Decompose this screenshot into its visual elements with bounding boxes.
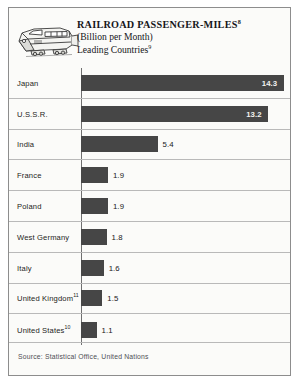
bar-track: 13.2 bbox=[81, 106, 286, 122]
bar-row-label: Italy bbox=[17, 263, 32, 272]
bar-row-label: United States10 bbox=[17, 325, 71, 334]
chart-title: RAILROAD PASSENGER-MILES8 bbox=[77, 18, 289, 31]
bar bbox=[81, 260, 104, 276]
bar bbox=[81, 290, 102, 306]
bar-row-footnote-ref: 10 bbox=[65, 324, 71, 330]
bar-row: United States101.1 bbox=[9, 314, 290, 345]
chart-header: RAILROAD PASSENGER-MILES8 (Billion per M… bbox=[9, 8, 290, 68]
bar-value-label: 1.1 bbox=[102, 325, 113, 334]
plot-area: Japan14.3U.S.S.R.13.2India5.4France1.9Po… bbox=[9, 68, 290, 345]
bar-value-label: 1.6 bbox=[109, 263, 120, 272]
bar-row: France1.9 bbox=[9, 160, 290, 191]
bar-track: 5.4 bbox=[81, 136, 286, 152]
bar-row: U.S.S.R.13.2 bbox=[9, 99, 290, 130]
bar-row: Japan14.3 bbox=[9, 68, 290, 99]
bar-track: 1.1 bbox=[81, 322, 286, 338]
chart-card: RAILROAD PASSENGER-MILES8 (Billion per M… bbox=[8, 7, 291, 376]
bar-rows-container: Japan14.3U.S.S.R.13.2India5.4France1.9Po… bbox=[9, 68, 290, 345]
bar-row-label-text: France bbox=[17, 171, 42, 180]
bar-row-label-text: West Germany bbox=[17, 232, 69, 241]
chart-subtitle-units: (Billion per Month) bbox=[77, 31, 289, 44]
bar-value-label: 14.3 bbox=[262, 78, 278, 87]
bar bbox=[81, 75, 284, 91]
bar-row-label: U.S.S.R. bbox=[17, 109, 48, 118]
bar bbox=[81, 136, 158, 152]
bar-row-label-text: U.S.S.R. bbox=[17, 109, 48, 118]
bar-row: India5.4 bbox=[9, 130, 290, 161]
chart-footer: Source: Statistical Office, United Natio… bbox=[9, 342, 290, 375]
bar-row: United Kingdom111.5 bbox=[9, 284, 290, 315]
source-note: Source: Statistical Office, United Natio… bbox=[18, 353, 149, 360]
chart-subtitle-scope: Leading Countries9 bbox=[77, 44, 289, 57]
bar-row-label: Poland bbox=[17, 202, 42, 211]
bar-value-label: 1.8 bbox=[112, 232, 123, 241]
bar-value-label: 1.9 bbox=[113, 202, 124, 211]
bar-track: 14.3 bbox=[81, 75, 286, 91]
bar-track: 1.8 bbox=[81, 229, 286, 245]
bar bbox=[81, 322, 97, 338]
bar-value-label: 5.4 bbox=[163, 140, 174, 149]
chart-title-footnote-ref: 8 bbox=[238, 18, 241, 25]
bar-value-label: 1.5 bbox=[107, 294, 118, 303]
bar-row-label-text: United States bbox=[17, 325, 65, 334]
bar-track: 1.5 bbox=[81, 290, 286, 306]
bar-track: 1.9 bbox=[81, 198, 286, 214]
bar-row: Poland1.9 bbox=[9, 191, 290, 222]
bar bbox=[81, 229, 107, 245]
bar bbox=[81, 198, 108, 214]
chart-subtitle-scope-text: Leading Countries bbox=[77, 44, 148, 55]
bar-track: 1.9 bbox=[81, 167, 286, 183]
bar-value-label: 13.2 bbox=[246, 109, 262, 118]
bar-row-label-text: Poland bbox=[17, 202, 42, 211]
bar-value-label: 1.9 bbox=[113, 171, 124, 180]
bar-row-label: India bbox=[17, 140, 34, 149]
bar bbox=[81, 106, 268, 122]
bar bbox=[81, 167, 108, 183]
chart-title-text: RAILROAD PASSENGER-MILES bbox=[77, 19, 238, 30]
bar-row-label: United Kingdom11 bbox=[17, 294, 79, 303]
bar-row-footnote-ref: 11 bbox=[73, 292, 79, 298]
bar-row-label: Japan bbox=[17, 78, 38, 87]
bar-row-label-text: Japan bbox=[17, 78, 38, 87]
bar-row-label-text: United Kingdom bbox=[17, 294, 73, 303]
locomotive-illustration bbox=[12, 20, 80, 60]
bar-row-label: West Germany bbox=[17, 232, 69, 241]
bar-row-label-text: India bbox=[17, 140, 34, 149]
bar-row-label-text: Italy bbox=[17, 263, 32, 272]
chart-subtitle-footnote-ref: 9 bbox=[148, 42, 151, 49]
title-block: RAILROAD PASSENGER-MILES8 (Billion per M… bbox=[77, 18, 289, 56]
bar-row: Italy1.6 bbox=[9, 253, 290, 284]
bar-track: 1.6 bbox=[81, 260, 286, 276]
bar-row: West Germany1.8 bbox=[9, 222, 290, 253]
bar-row-label: France bbox=[17, 171, 42, 180]
